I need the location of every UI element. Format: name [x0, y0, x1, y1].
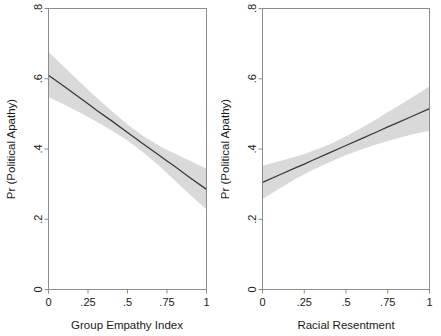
y-tick-label: .2: [32, 215, 44, 224]
chart-svg-right: 0.2.4.6.8 0.25.5.751 Racial Resentment P…: [221, 0, 441, 336]
y-axis-title-right: Pr (Political Apathy): [221, 99, 231, 200]
plot-area-left: [49, 52, 207, 209]
plot-area-right: [263, 86, 430, 198]
x-axis-title-right: Racial Resentment: [297, 319, 395, 331]
x-tick-label: 1: [426, 296, 432, 308]
x-tick-label: 1: [203, 296, 209, 308]
chart-panel-right: 0.2.4.6.8 0.25.5.751 Racial Resentment P…: [221, 0, 441, 336]
y-tick-label: .4: [246, 144, 258, 153]
y-axis-ticks-left: 0.2.4.6.8: [32, 4, 48, 293]
y-tick-label: .6: [246, 74, 258, 83]
y-tick-label: 0: [246, 286, 258, 292]
x-tick-label: 0: [45, 296, 51, 308]
confidence-band-left: [49, 52, 207, 209]
chart-svg-left: 0.2.4.6.8 0.25.5.751 Group Empathy Index…: [0, 0, 221, 336]
y-axis-ticks-right: 0.2.4.6.8: [246, 4, 262, 293]
x-tick-label: .75: [159, 296, 174, 308]
y-tick-label: 0: [32, 286, 44, 292]
x-axis-ticks-right: 0.25.5.751: [259, 290, 432, 308]
x-tick-label: .25: [80, 296, 95, 308]
x-tick-label: .25: [297, 296, 312, 308]
y-tick-label: .4: [32, 144, 44, 153]
y-tick-label: .8: [32, 4, 44, 13]
fit-line-left: [49, 75, 207, 189]
y-tick-label: .2: [246, 215, 258, 224]
chart-panel-left: 0.2.4.6.8 0.25.5.751 Group Empathy Index…: [0, 0, 221, 336]
figure-container: 0.2.4.6.8 0.25.5.751 Group Empathy Index…: [0, 0, 441, 336]
y-axis-title-left: Pr (Political Apathy): [5, 99, 17, 200]
y-tick-label: .8: [246, 4, 258, 13]
x-tick-label: .75: [380, 296, 395, 308]
plot-frame-left: [49, 9, 207, 290]
x-axis-title-left: Group Empathy Index: [71, 319, 183, 331]
confidence-band-right: [263, 86, 430, 198]
x-tick-label: 0: [259, 296, 265, 308]
y-tick-label: .6: [32, 74, 44, 83]
x-tick-label: .5: [123, 296, 132, 308]
x-axis-ticks-left: 0.25.5.751: [45, 290, 209, 308]
fit-line-right: [263, 109, 430, 183]
x-tick-label: .5: [341, 296, 350, 308]
